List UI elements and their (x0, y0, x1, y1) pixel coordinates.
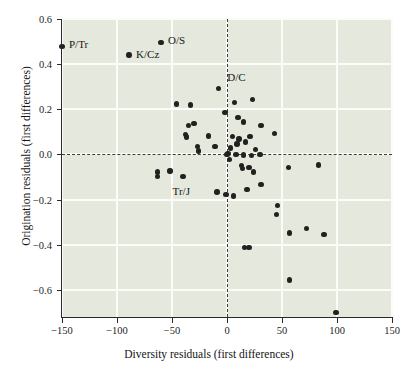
x-tick-label: −100 (106, 325, 128, 336)
data-point (258, 182, 263, 187)
data-point (333, 310, 338, 315)
x-tick-label: 100 (329, 325, 345, 336)
data-point (191, 121, 196, 126)
x-tick-mark (227, 318, 228, 323)
data-point (212, 144, 217, 149)
data-point (184, 134, 189, 139)
x-tick-label: 150 (384, 325, 400, 336)
data-point (188, 102, 193, 107)
data-point (230, 134, 235, 139)
data-point (186, 123, 191, 128)
x-tick-label: −150 (51, 325, 73, 336)
data-point (258, 123, 263, 128)
data-point (232, 100, 237, 105)
data-point (158, 40, 163, 45)
y-tick-label: 0.2 (52, 104, 65, 115)
data-point (223, 192, 228, 197)
data-point (240, 166, 245, 171)
y-tick-label: 0.6 (52, 14, 65, 25)
data-point (231, 193, 236, 198)
gridline-horizontal (62, 63, 392, 65)
data-point (272, 131, 277, 136)
data-point (206, 133, 211, 138)
data-point (304, 226, 309, 231)
gridline-horizontal (62, 199, 392, 201)
data-point (167, 168, 172, 173)
x-tick-label: 50 (277, 325, 288, 336)
data-point (243, 139, 248, 144)
data-point (196, 148, 201, 153)
data-point (250, 97, 255, 102)
data-point (287, 230, 292, 235)
y-tick-label: −0.4 (52, 239, 71, 250)
data-point (274, 212, 279, 217)
point-label-p-tr: P/Tr (69, 38, 88, 50)
data-point (233, 152, 238, 157)
x-tick-label: −50 (164, 325, 180, 336)
data-point (241, 152, 246, 157)
data-point (287, 277, 292, 282)
x-tick-mark (282, 318, 283, 323)
y-tick-label: −0.2 (52, 194, 71, 205)
point-label-o-s: O/S (168, 34, 185, 46)
gridline-horizontal (62, 244, 392, 246)
x-tick-mark (337, 318, 338, 323)
data-point (126, 52, 131, 57)
data-point (180, 174, 185, 179)
x-tick-mark (172, 318, 173, 323)
data-point (244, 187, 249, 192)
gridline-horizontal (62, 18, 392, 20)
point-label-tr-j: Tr/J (173, 185, 190, 197)
gridline-horizontal (62, 289, 392, 291)
data-point (321, 232, 326, 237)
data-point (234, 141, 239, 146)
x-tick-mark (392, 318, 393, 323)
y-tick-label: −0.6 (52, 284, 71, 295)
data-point (251, 169, 256, 174)
data-point (246, 245, 251, 250)
y-tick-label: 0.4 (52, 59, 65, 70)
x-axis-title: Diversity residuals (first differences) (0, 348, 418, 360)
data-point (214, 189, 219, 194)
y-axis-title: Origination residuals (first differences… (20, 26, 32, 286)
point-label-d-c: D/C (227, 71, 245, 83)
y-tick-label: 0.0 (52, 149, 65, 160)
data-point (286, 165, 291, 170)
data-point (241, 119, 246, 124)
data-point (316, 162, 321, 167)
data-point (235, 115, 240, 120)
point-label-k-cz: K/Cz (136, 48, 159, 60)
data-point (257, 152, 262, 157)
plot-panel: P/TrO/SK/CzD/CTr/J (62, 19, 392, 317)
data-point (222, 110, 227, 115)
data-point (155, 174, 160, 179)
data-point (174, 101, 179, 106)
data-point (227, 157, 232, 162)
x-tick-mark (117, 318, 118, 323)
data-point (247, 134, 252, 139)
scatter-plot-figure: P/TrO/SK/CzD/CTr/J −150−100−50050100150 … (0, 0, 418, 374)
data-point (216, 86, 221, 91)
data-point (249, 153, 254, 158)
data-point (275, 203, 280, 208)
x-tick-mark (62, 318, 63, 323)
x-tick-label: 0 (224, 325, 229, 336)
